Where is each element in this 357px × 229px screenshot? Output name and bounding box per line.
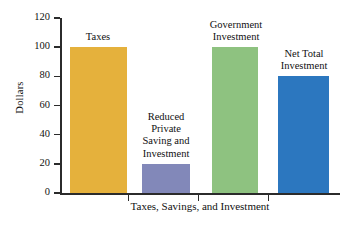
bar-reduced-private-saving-and-investment[interactable] (142, 164, 190, 193)
bar-label-net-total-investment: Net Total Investment (265, 48, 343, 72)
x-axis-title: Taxes, Savings, and Investment (60, 200, 340, 212)
y-axis-title: Dollars (14, 63, 25, 133)
x-axis-line (60, 193, 340, 195)
y-tick-label: 20 (22, 158, 50, 169)
bar-taxes[interactable] (70, 47, 127, 193)
bar-government-investment[interactable] (212, 47, 258, 193)
y-axis-line (60, 18, 62, 194)
y-tick-mark (54, 192, 60, 193)
y-tick-label: 60 (22, 100, 50, 111)
bar-label-taxes: Taxes (58, 31, 138, 43)
bar-chart: 120100806040200 Dollars Taxes, Savings, … (0, 0, 357, 229)
y-tick-mark (54, 46, 60, 47)
bar-label-government-investment: Government Investment (196, 19, 276, 43)
bar-net-total-investment[interactable] (278, 76, 329, 193)
y-tick-mark (54, 17, 60, 18)
bar-label-reduced-private-saving-and-investment: Reduced Private Saving and Investment (128, 111, 204, 160)
y-tick-mark (54, 76, 60, 77)
y-tick-mark (54, 105, 60, 106)
y-tick-label: 80 (22, 70, 50, 81)
y-tick-mark (54, 163, 60, 164)
y-tick-label: 120 (22, 12, 50, 23)
y-tick-label: 100 (22, 41, 50, 52)
y-tick-label: 0 (22, 187, 50, 198)
y-tick-label: 40 (22, 129, 50, 140)
y-tick-mark (54, 134, 60, 135)
